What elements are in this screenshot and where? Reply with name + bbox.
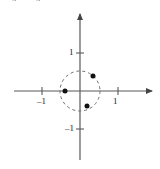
y-tick-label: –1 <box>65 123 74 133</box>
x-tick-label: 1 <box>113 96 118 106</box>
x-tick-label: –1 <box>37 96 46 106</box>
y-tick-label: 1 <box>69 47 74 57</box>
coordinate-plane-figure: 4 4 –111–1 <box>0 0 160 169</box>
data-point <box>91 74 96 79</box>
data-point <box>85 104 90 109</box>
axes-group <box>14 14 152 160</box>
plot-canvas <box>0 0 160 169</box>
data-point <box>63 89 68 94</box>
